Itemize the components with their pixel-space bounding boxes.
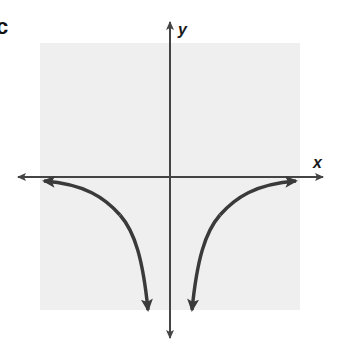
y-axis-label: y: [177, 21, 188, 38]
function-graph: x y: [0, 0, 339, 354]
x-axis-label: x: [312, 154, 323, 171]
